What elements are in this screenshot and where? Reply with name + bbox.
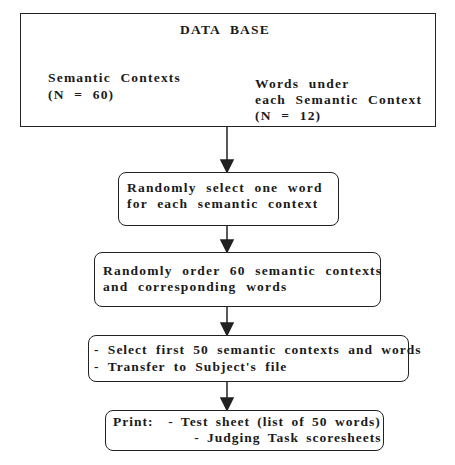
- database-title: DATA BASE: [180, 22, 270, 38]
- semantic-contexts-count: (N = 60): [48, 87, 114, 103]
- words-label-2: each Semantic Context: [255, 92, 422, 108]
- words-count: (N = 12): [255, 108, 321, 124]
- words-label-1: Words under: [255, 76, 349, 92]
- step-1-line-1: Randomly select one word: [127, 180, 323, 196]
- step-1-line-2: for each semantic context: [127, 196, 318, 212]
- semantic-contexts-label: Semantic Contexts: [48, 70, 181, 86]
- step-4-line-2: - Judging Task scoresheets: [113, 430, 382, 446]
- step-3-line-1: - Select first 50 semantic contexts and …: [94, 342, 422, 358]
- step-2-line-2: and corresponding words: [103, 279, 287, 295]
- step-2-line-1: Randomly order 60 semantic contexts: [103, 263, 382, 279]
- step-4-line-1: Print: - Test sheet (list of 50 words): [113, 414, 381, 430]
- step-3-line-2: - Transfer to Subject's file: [94, 359, 287, 375]
